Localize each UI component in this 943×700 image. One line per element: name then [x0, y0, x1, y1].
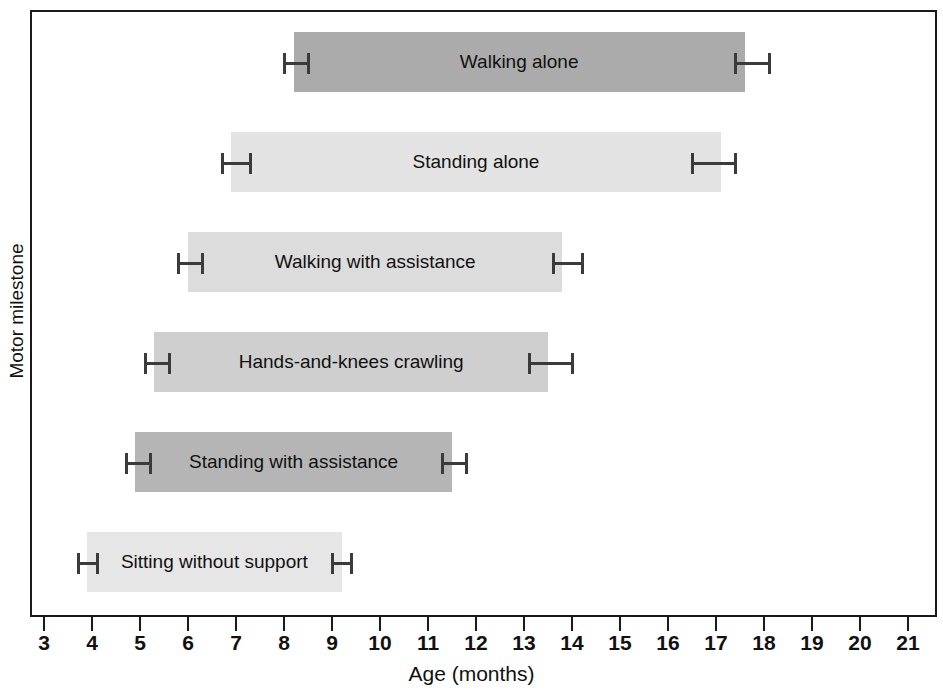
x-axis-tick [43, 617, 45, 631]
x-axis-tick-label: 9 [326, 631, 338, 655]
x-axis-tick-label: 6 [182, 631, 194, 655]
x-axis-tick-label: 16 [656, 631, 679, 655]
x-axis-tick [139, 617, 141, 631]
x-axis-tick-label: 7 [230, 631, 242, 655]
y-axis-title: Motor milestone [6, 201, 28, 421]
x-axis-tick [859, 617, 861, 631]
x-axis-tick [571, 617, 573, 631]
x-axis-tick [523, 617, 525, 631]
x-axis-tick [283, 617, 285, 631]
x-axis-tick-label: 12 [464, 631, 487, 655]
x-axis-tick [91, 617, 93, 631]
x-axis-tick-label: 8 [278, 631, 290, 655]
x-axis-tick [475, 617, 477, 631]
x-axis-tick-label: 3 [38, 631, 50, 655]
x-axis-tick-label: 13 [512, 631, 535, 655]
x-axis-tick [619, 617, 621, 631]
x-axis-tick [811, 617, 813, 631]
x-axis-tick [907, 617, 909, 631]
x-axis-tick [331, 617, 333, 631]
x-axis-tick-labels: 3456789101112131415161718192021 [0, 631, 943, 661]
x-axis-tick [763, 617, 765, 631]
motor-milestone-chart: Walking aloneStanding aloneWalking with … [0, 0, 943, 700]
x-axis-tick [427, 617, 429, 631]
x-axis-tick-label: 11 [417, 631, 439, 655]
x-axis-title: Age (months) [0, 662, 943, 686]
x-axis-tick-label: 5 [134, 631, 146, 655]
plot-frame [30, 10, 937, 617]
x-axis-tick-label: 18 [752, 631, 775, 655]
x-axis-tick [715, 617, 717, 631]
x-axis-tick-label: 20 [848, 631, 871, 655]
x-axis-tick-label: 14 [560, 631, 583, 655]
x-axis-tick-label: 10 [368, 631, 391, 655]
x-axis-tick [667, 617, 669, 631]
x-axis-tick-label: 15 [608, 631, 631, 655]
x-axis-tick-label: 19 [800, 631, 823, 655]
x-axis-tick-label: 17 [704, 631, 727, 655]
x-axis-tick [187, 617, 189, 631]
x-axis-tick-label: 4 [86, 631, 98, 655]
x-axis-tick [235, 617, 237, 631]
x-axis-tick-label: 21 [896, 631, 919, 655]
x-axis-tick [379, 617, 381, 631]
